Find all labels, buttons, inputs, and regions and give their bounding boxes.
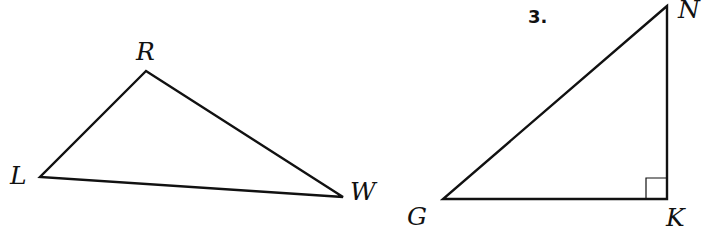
vertex-label-R: R bbox=[135, 37, 155, 66]
triangle-LRW-outline bbox=[40, 71, 343, 197]
geometry-figure: R L W 3. N G K bbox=[0, 0, 704, 243]
vertex-label-N: N bbox=[677, 0, 701, 24]
vertex-label-K: K bbox=[665, 203, 686, 232]
right-angle-marker bbox=[646, 178, 667, 199]
problem-number: 3. bbox=[528, 6, 547, 27]
triangle-GNK: N G K bbox=[407, 0, 701, 232]
triangle-GNK-outline bbox=[443, 6, 667, 199]
triangle-LRW: R L W bbox=[9, 37, 378, 206]
vertex-label-L: L bbox=[9, 161, 27, 190]
vertex-label-G: G bbox=[407, 202, 427, 231]
vertex-label-W: W bbox=[350, 177, 378, 206]
